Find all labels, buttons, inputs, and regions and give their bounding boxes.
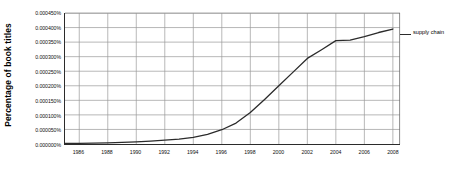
x-tick-label: 1992 [158, 149, 169, 155]
y-tick-label: 0.000150% [35, 98, 61, 104]
plot-area [64, 13, 400, 145]
x-tick-label: 2004 [330, 149, 341, 155]
data-line-supply-chain [65, 29, 393, 143]
series-supply-chain-line [65, 13, 400, 144]
y-axis-title-text: Percentage of book titles [3, 23, 13, 127]
x-axis-tick-labels: 1986198819901992199419961998200020022004… [64, 149, 400, 161]
y-axis-tick-labels: 0.000450%0.000400%0.000350%0.000300%0.00… [14, 13, 61, 145]
y-tick-label: 0.000400% [35, 25, 61, 31]
y-tick-label: 0.000350% [35, 39, 61, 45]
x-tick-label: 1986 [73, 149, 84, 155]
x-tick-label: 1994 [187, 149, 198, 155]
y-tick-label: 0.000250% [35, 69, 61, 75]
ngram-line-chart: Percentage of book titles 0.000450%0.000… [0, 0, 456, 177]
y-tick-label: 0.000300% [35, 54, 61, 60]
x-tick-label: 1988 [101, 149, 112, 155]
x-tick-label: 2006 [359, 149, 370, 155]
x-tick-label: 2008 [387, 149, 398, 155]
legend-line-swatch [400, 34, 411, 35]
y-tick-label: 0.000200% [35, 83, 61, 89]
legend-entry-label: supply chain [413, 29, 444, 35]
x-tick-label: 1990 [130, 149, 141, 155]
y-tick-label: 0.000050% [35, 127, 61, 133]
y-tick-label: 0.000000% [35, 142, 61, 148]
legend: supply chain [400, 27, 456, 43]
y-tick-label: 0.000450% [35, 10, 61, 16]
y-tick-label: 0.000100% [35, 113, 61, 119]
x-tick-label: 2002 [301, 149, 312, 155]
x-tick-label: 2000 [273, 149, 284, 155]
x-tick-label: 1996 [216, 149, 227, 155]
x-tick-label: 1998 [244, 149, 255, 155]
